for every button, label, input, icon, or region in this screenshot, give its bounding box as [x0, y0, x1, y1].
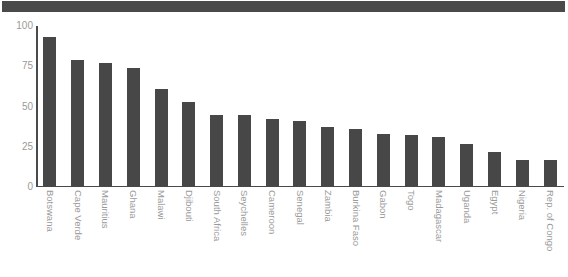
- x-tick-label: Nigeria: [517, 190, 527, 220]
- bar-slot: [342, 26, 370, 187]
- bar-slot: [508, 26, 536, 187]
- bar-slot: [314, 26, 342, 187]
- bar[interactable]: [127, 68, 140, 187]
- bar[interactable]: [405, 135, 418, 187]
- bar[interactable]: [266, 119, 279, 187]
- x-label-slot: South Africa: [203, 188, 231, 277]
- x-label-slot: Gabon: [369, 188, 397, 277]
- bar[interactable]: [516, 160, 529, 187]
- bar-slot: [453, 26, 481, 187]
- x-label-slot: Ghana: [119, 188, 147, 277]
- y-tick-label: 100: [3, 21, 33, 31]
- x-tick-label: Cape Verde: [73, 190, 83, 240]
- x-axis-category-labels: BotswanaCape VerdeMauritiusGhanaMalawiDj…: [36, 188, 564, 277]
- y-axis-tick-labels: 0255075100: [0, 0, 33, 187]
- bar[interactable]: [544, 160, 557, 187]
- x-tick-label: Burkina Faso: [351, 190, 361, 246]
- header-banner: [2, 1, 565, 12]
- bar-slot: [397, 26, 425, 187]
- x-label-slot: Nigeria: [508, 188, 536, 277]
- bar[interactable]: [377, 134, 390, 187]
- x-tick-label: Djibouti: [184, 190, 194, 222]
- bar[interactable]: [349, 129, 362, 187]
- x-tick-label: Senegal: [295, 190, 305, 225]
- x-tick-label: Seychelles: [239, 190, 249, 236]
- bar[interactable]: [488, 152, 501, 187]
- x-label-slot: Mauritius: [92, 188, 120, 277]
- bar[interactable]: [99, 63, 112, 187]
- bar[interactable]: [460, 144, 473, 187]
- bar-slot: [231, 26, 259, 187]
- x-label-slot: Cape Verde: [64, 188, 92, 277]
- x-tick-label: Cameroon: [267, 190, 277, 234]
- y-tick-label: 75: [3, 61, 33, 71]
- bar[interactable]: [43, 37, 56, 187]
- bar[interactable]: [238, 115, 251, 187]
- bar[interactable]: [155, 89, 168, 187]
- bar-slot: [425, 26, 453, 187]
- bar-slot: [92, 26, 120, 187]
- bar[interactable]: [432, 137, 445, 187]
- bar-slot: [36, 26, 64, 187]
- x-tick-label: Mauritius: [100, 190, 110, 229]
- bar-slot: [147, 26, 175, 187]
- bar-slot: [286, 26, 314, 187]
- bar-slot: [175, 26, 203, 187]
- x-label-slot: Botswana: [36, 188, 64, 277]
- bar-slot: [481, 26, 509, 187]
- x-tick-label: Zambia: [323, 190, 333, 222]
- x-tick-label: Botswana: [45, 190, 55, 232]
- bar-slot: [536, 26, 564, 187]
- x-label-slot: Djibouti: [175, 188, 203, 277]
- bar[interactable]: [321, 127, 334, 187]
- bar-slot: [369, 26, 397, 187]
- bar-slot: [258, 26, 286, 187]
- bar-slot: [119, 26, 147, 187]
- bar-chart-figure: 0255075100 BotswanaCape VerdeMauritiusGh…: [0, 0, 568, 277]
- bar-slot: [203, 26, 231, 187]
- x-tick-label: South Africa: [212, 190, 222, 241]
- x-label-slot: Uganda: [453, 188, 481, 277]
- x-tick-label: Egypt: [490, 190, 500, 214]
- x-label-slot: Cameroon: [258, 188, 286, 277]
- x-label-slot: Zambia: [314, 188, 342, 277]
- bar[interactable]: [210, 115, 223, 187]
- x-tick-label: Madagascar: [434, 190, 444, 242]
- x-label-slot: Togo: [397, 188, 425, 277]
- x-tick-label: Togo: [406, 190, 416, 211]
- x-tick-label: Uganda: [462, 190, 472, 223]
- x-label-slot: Burkina Faso: [342, 188, 370, 277]
- bar-series: [36, 26, 564, 187]
- x-tick-label: Ghana: [128, 190, 138, 219]
- x-label-slot: Malawi: [147, 188, 175, 277]
- y-tick-label: 50: [3, 102, 33, 112]
- bar[interactable]: [71, 60, 84, 187]
- x-label-slot: Rep. of Congo: [536, 188, 564, 277]
- bar[interactable]: [293, 121, 306, 187]
- x-label-slot: Egypt: [481, 188, 509, 277]
- x-tick-label: Malawi: [156, 190, 166, 220]
- x-tick-label: Rep. of Congo: [545, 190, 555, 251]
- x-label-slot: Senegal: [286, 188, 314, 277]
- y-tick-label: 0: [3, 182, 33, 192]
- bar-slot: [64, 26, 92, 187]
- y-tick-label: 25: [3, 142, 33, 152]
- x-label-slot: Seychelles: [231, 188, 259, 277]
- x-tick-label: Gabon: [378, 190, 388, 219]
- x-label-slot: Madagascar: [425, 188, 453, 277]
- bar[interactable]: [182, 102, 195, 187]
